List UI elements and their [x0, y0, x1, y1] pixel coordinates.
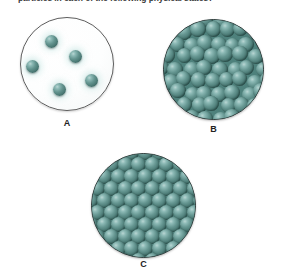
particle	[224, 109, 240, 120]
particle	[69, 50, 82, 63]
particle	[203, 96, 219, 112]
particle	[217, 46, 233, 62]
panel-c: C	[91, 153, 196, 273]
particle	[166, 241, 181, 256]
circle-c-solid	[91, 153, 196, 258]
circle-b-liquid	[163, 19, 264, 120]
particle	[26, 60, 39, 73]
particle	[232, 46, 248, 62]
panel-a-label: A	[20, 118, 114, 128]
states-of-matter-figure: particles in each of the following physi…	[0, 0, 282, 273]
particle	[232, 71, 248, 87]
question-text: particles in each of the following physi…	[18, 0, 268, 3]
particle	[53, 83, 66, 96]
particle	[91, 229, 105, 244]
panel-b-label: B	[163, 124, 264, 134]
particle	[197, 111, 213, 120]
particle	[233, 21, 249, 37]
circle-a-gas	[20, 17, 114, 111]
panel-b: B	[163, 19, 264, 160]
particle	[85, 74, 98, 87]
panel-a: A	[20, 17, 114, 151]
particle	[247, 98, 263, 114]
panel-c-label: C	[91, 259, 196, 269]
particle	[253, 83, 264, 99]
particle	[111, 241, 126, 256]
particle	[45, 35, 58, 48]
